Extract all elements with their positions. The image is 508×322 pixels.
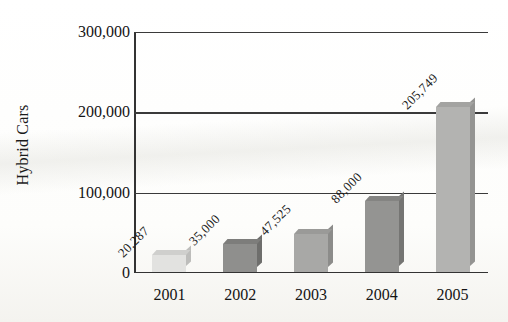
bar-front-face: [436, 107, 470, 271]
y-axis-title-text: Hybrid Cars: [14, 105, 32, 186]
bar[interactable]: [152, 255, 186, 271]
bar-side-face: [470, 98, 475, 267]
x-axis-line: [134, 272, 488, 274]
bar-top-face: [436, 102, 475, 107]
bar-front-face: [152, 255, 186, 271]
x-tick-label: 2001: [153, 286, 185, 304]
plot-area: 20,28735,00047,52588,000205,749: [134, 32, 488, 273]
bar-slot: [294, 234, 328, 272]
y-tick-label: 100,000: [38, 184, 130, 202]
bar-slot: [223, 244, 257, 272]
y-tick-label: 200,000: [38, 103, 130, 121]
bar-series: 20,28735,00047,52588,000205,749: [134, 32, 488, 272]
bar-chart-figure: Hybrid Cars 0100,000200,000300,000 20,28…: [0, 0, 508, 322]
x-tick-label: 2003: [295, 286, 327, 304]
bar-front-face: [365, 201, 399, 271]
bar-side-face: [399, 192, 404, 267]
bar-value-label: 35,000: [186, 211, 224, 249]
bar-top-face: [365, 196, 404, 201]
x-tick-label: 2005: [437, 286, 469, 304]
bar-front-face: [223, 244, 257, 272]
x-tick-label: 2004: [366, 286, 398, 304]
y-axis-title: Hybrid Cars: [10, 60, 36, 230]
bar-slot: [365, 201, 399, 271]
bar[interactable]: [223, 244, 257, 272]
bar-front-face: [294, 234, 328, 272]
bar[interactable]: [365, 201, 399, 271]
x-tick-label: 2002: [224, 286, 256, 304]
y-tick-label: 300,000: [38, 23, 130, 41]
bar-slot: [152, 255, 186, 271]
bar[interactable]: [436, 107, 470, 271]
x-axis-tick-labels: 20012002200320042005: [134, 286, 488, 310]
bar-value-label: 205,749: [398, 70, 441, 113]
bar-slot: [436, 107, 470, 271]
bar-side-face: [186, 246, 191, 267]
bar-top-face: [223, 239, 262, 244]
bar-top-face: [152, 250, 191, 255]
bar-value-label: 47,525: [257, 201, 295, 239]
bar[interactable]: [294, 234, 328, 272]
y-axis-tick-labels: 0100,000200,000300,000: [38, 0, 130, 322]
bar-top-face: [294, 229, 333, 234]
y-tick-label: 0: [38, 264, 130, 282]
bar-value-label: 88,000: [327, 169, 365, 207]
